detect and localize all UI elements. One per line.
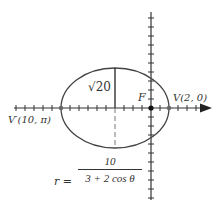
focus-point [148, 105, 153, 110]
vertex-right-label: V(2, 0) [173, 93, 207, 103]
x-axis-arrow-icon [200, 104, 212, 113]
equation-fraction: 10 3 + 2 cos θ [78, 155, 142, 184]
equation-lhs: r = [54, 176, 72, 187]
equation-numerator: 10 [78, 155, 142, 169]
equation-denominator: 3 + 2 cos θ [78, 170, 142, 184]
focus-label: F [138, 92, 146, 103]
semi-minor-label: √20 [88, 81, 111, 93]
vertex-left-point [59, 106, 63, 110]
vertex-left-label: V′(10, π) [8, 115, 51, 125]
vertex-right-point [167, 106, 171, 110]
